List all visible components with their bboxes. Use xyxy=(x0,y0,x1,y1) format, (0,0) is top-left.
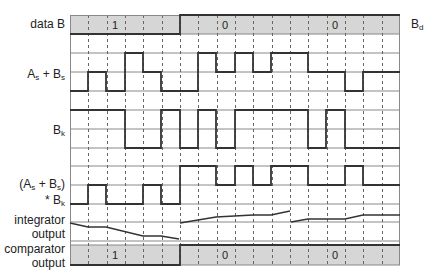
label-part: + B xyxy=(35,177,57,191)
label-product-line1: (As + Bs) xyxy=(19,178,65,194)
label-bd-sub: d xyxy=(419,23,423,32)
data-b-bit-label: 1 xyxy=(112,19,118,31)
label-as-plus-bs: As + Bs xyxy=(27,68,65,84)
data-b-bit-label: 0 xyxy=(222,19,228,31)
comparator-bit-label: 0 xyxy=(332,249,338,261)
label-line: comparator xyxy=(4,243,65,256)
label-product: (As + Bs) * Bk xyxy=(19,178,65,210)
label-sub: k xyxy=(61,129,65,138)
label-bd: Bd xyxy=(411,18,423,34)
label-part: (A xyxy=(19,177,31,191)
label-integrator: integrator output xyxy=(14,214,65,241)
label-line: output xyxy=(14,228,65,241)
label-comparator: comparator output xyxy=(4,243,65,270)
label-part: + B xyxy=(39,67,61,81)
label-line: output xyxy=(4,257,65,270)
comparator-bit-label: 1 xyxy=(112,249,118,261)
label-product-line2: * Bk xyxy=(19,194,65,210)
label-part: ) xyxy=(61,177,65,191)
label-line: integrator xyxy=(14,214,65,227)
label-part: * B xyxy=(45,193,61,207)
label-bk: Bk xyxy=(53,124,65,140)
data-b-bit-label: 0 xyxy=(332,19,338,31)
label-part: B xyxy=(53,123,61,137)
label-data-b: data B xyxy=(30,18,65,31)
label-data-b-text: data B xyxy=(30,17,65,31)
label-sub: s xyxy=(61,73,65,82)
label-sub: k xyxy=(61,199,65,208)
label-bd-main: B xyxy=(411,17,419,31)
comparator-bit-label: 0 xyxy=(222,249,228,261)
